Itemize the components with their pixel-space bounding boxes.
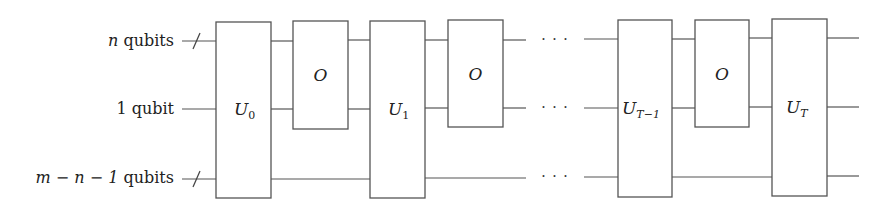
wire-middle-register [182,107,859,109]
gate-O-oracle-1: O [293,21,348,129]
gate-U-T: UT [772,19,827,196]
wire-top-register [182,38,859,41]
gate-U1: U1 [370,21,425,198]
register-label-1-qubit: 1 qubit [116,99,174,118]
gate-U0: U0 [216,22,271,198]
gate-O-oracle-2: O [448,20,503,127]
quantum-circuit-diagram: n qubits 1 qubit m − n − 1 qubits [0,0,883,209]
svg-text:O: O [715,64,729,84]
svg-text:O: O [469,64,483,84]
ellipsis-top: · · · [541,31,568,47]
gate-O-oracle-3: O [695,20,749,127]
register-label-n-qubits: n qubits [108,31,174,50]
gate-U-T-minus-1: UT−1 [618,20,672,197]
wire-bottom-register [182,176,859,179]
ellipsis-middle: · · · [541,99,568,115]
ellipsis-bottom: · · · [541,168,568,184]
svg-text:O: O [314,65,328,85]
register-label-m-n-1-qubits: m − n − 1 qubits [36,168,174,187]
